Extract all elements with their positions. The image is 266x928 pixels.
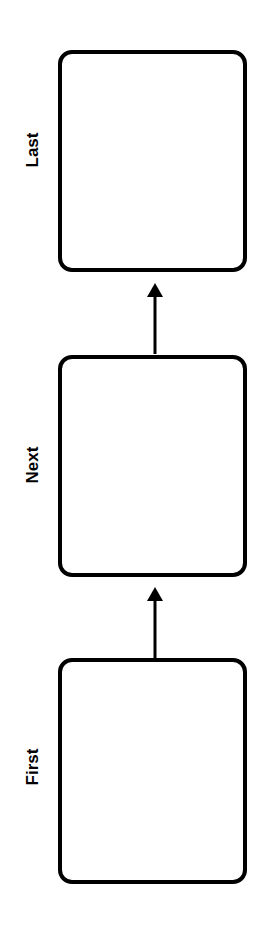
node-first-box [58, 658, 247, 884]
node-last-label: Last [23, 133, 43, 168]
node-next-label: Next [23, 447, 43, 484]
node-first-label: First [23, 749, 43, 786]
arrow-next-to-last [147, 283, 163, 354]
node-next-box [58, 355, 247, 577]
arrow-first-to-next [147, 587, 163, 658]
node-last-box [58, 50, 247, 272]
